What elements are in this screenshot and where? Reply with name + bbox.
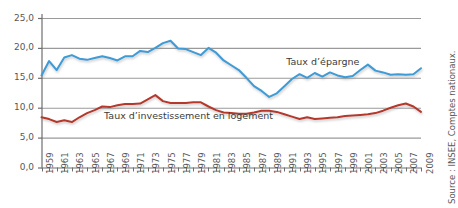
x-tick-label: 1991 — [288, 152, 298, 174]
y-tick-label: 15,0 — [2, 72, 34, 82]
source-note: Source : INSEE, Comptes nationaux. — [447, 50, 457, 204]
chart-plot-area — [0, 0, 458, 208]
x-tick-label: 1985 — [242, 152, 252, 174]
x-tick-label: 2001 — [364, 152, 374, 174]
y-tick-label: 5,0 — [2, 132, 34, 142]
x-tick-label: 1983 — [227, 152, 237, 174]
x-tick-label: 1969 — [121, 152, 131, 174]
x-tick-label: 2005 — [394, 152, 404, 174]
x-tick-label: 1967 — [106, 152, 116, 174]
x-tick-label: 1965 — [91, 152, 101, 174]
series-line-taux-epargne — [42, 41, 422, 97]
x-tick-label: 1995 — [318, 152, 328, 174]
x-tick-label: 1979 — [197, 152, 207, 174]
x-tick-label: 1963 — [75, 152, 85, 174]
x-tick-label: 1981 — [212, 152, 222, 174]
x-tick-label: 1977 — [182, 152, 192, 174]
x-tick-label: 1973 — [151, 152, 161, 174]
x-tick-label: 1959 — [45, 152, 55, 174]
y-tick-label: 20,0 — [2, 42, 34, 52]
x-tick-label: 1987 — [258, 152, 268, 174]
chart-container: 0,05,010,015,020,025,0 19591961196319651… — [0, 0, 458, 208]
x-tick-label: 1971 — [136, 152, 146, 174]
series-label-taux-epargne: Taux d’épargne — [286, 56, 359, 67]
x-tick-label: 1961 — [60, 152, 70, 174]
x-tick-label: 1997 — [334, 152, 344, 174]
x-tick-label: 2009 — [425, 152, 435, 174]
x-tick-label: 1993 — [303, 152, 313, 174]
y-tick-label: 0,0 — [2, 162, 34, 172]
x-tick-label: 1975 — [167, 152, 177, 174]
x-tick-label: 1999 — [349, 152, 359, 174]
series-label-taux-investissement: Taux d’investissement en logement — [104, 110, 273, 121]
x-tick-label: 2003 — [379, 152, 389, 174]
x-tick-label: 2007 — [409, 152, 419, 174]
y-tick-label: 10,0 — [2, 102, 34, 112]
x-tick-label: 1989 — [273, 152, 283, 174]
y-tick-label: 25,0 — [2, 13, 34, 23]
